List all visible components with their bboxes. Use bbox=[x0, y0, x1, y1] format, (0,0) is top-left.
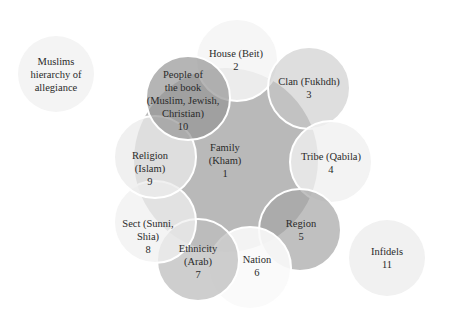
label-people-of-the-book: People of the book (Muslim, Jewish, Chri… bbox=[147, 68, 220, 133]
label-line: the book bbox=[147, 81, 220, 94]
label-line: Shia) bbox=[122, 230, 173, 243]
label-line: Sect (Sunni, bbox=[122, 217, 173, 230]
label-line: Ethnicity bbox=[179, 242, 218, 255]
label-line: 10 bbox=[147, 120, 220, 133]
label-clan: Clan (Fukhdh) 3 bbox=[278, 75, 340, 101]
label-line: (Muslim, Jewish, bbox=[147, 94, 220, 107]
label-line: Clan (Fukhdh) bbox=[278, 75, 340, 88]
label-line: House (Beit) bbox=[209, 47, 263, 60]
label-ethnicity: Ethnicity (Arab) 7 bbox=[179, 242, 218, 281]
label-tribe: Tribe (Qabila) 4 bbox=[301, 150, 361, 176]
label-infidels: Infidels 11 bbox=[371, 245, 403, 271]
label-line: (Kham) bbox=[209, 154, 242, 167]
label-line: 5 bbox=[286, 230, 316, 243]
label-religion: Religion (Islam) 9 bbox=[132, 149, 168, 188]
label-line: Family bbox=[209, 141, 242, 154]
label-line: 6 bbox=[243, 266, 272, 279]
label-line: 9 bbox=[132, 175, 168, 188]
label-nation: Nation 6 bbox=[243, 253, 272, 279]
label-line: Religion bbox=[132, 149, 168, 162]
label-line: (Arab) bbox=[179, 255, 218, 268]
diagram-title: Muslims hierarchy of allegiance bbox=[30, 55, 81, 94]
label-line: Nation bbox=[243, 253, 272, 266]
title-line: Muslims bbox=[30, 55, 81, 68]
title-line: allegiance bbox=[30, 81, 81, 94]
label-region: Region 5 bbox=[286, 217, 316, 243]
label-line: Infidels bbox=[371, 245, 403, 258]
label-line: 1 bbox=[209, 167, 242, 180]
label-line: Region bbox=[286, 217, 316, 230]
label-family: Family (Kham) 1 bbox=[209, 141, 242, 180]
label-line: 7 bbox=[179, 268, 218, 281]
label-line: 3 bbox=[278, 88, 340, 101]
label-line: (Islam) bbox=[132, 162, 168, 175]
title-line: hierarchy of bbox=[30, 68, 81, 81]
label-line: People of bbox=[147, 68, 220, 81]
label-line: 4 bbox=[301, 163, 361, 176]
label-sect: Sect (Sunni, Shia) 8 bbox=[122, 217, 173, 256]
label-line: 11 bbox=[371, 258, 403, 271]
label-line: Christian) bbox=[147, 107, 220, 120]
label-line: 8 bbox=[122, 243, 173, 256]
label-line: Tribe (Qabila) bbox=[301, 150, 361, 163]
